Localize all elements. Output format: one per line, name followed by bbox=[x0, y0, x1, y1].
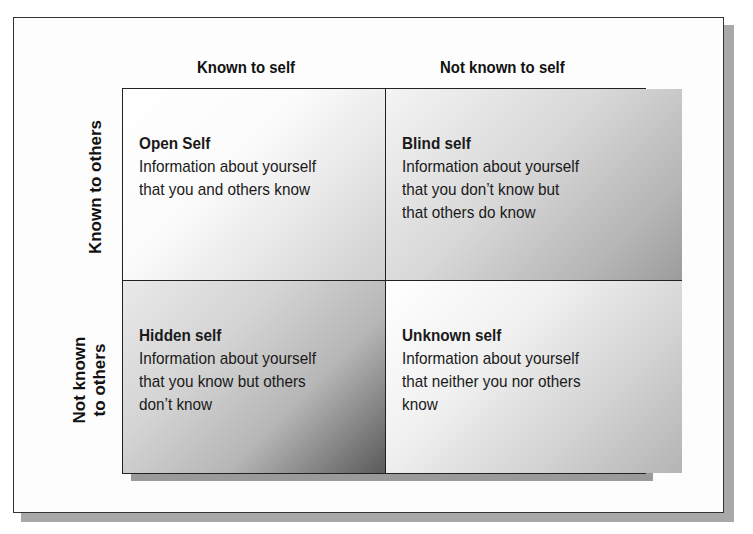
row-header-not-known-to-others: Not known to others bbox=[70, 325, 114, 435]
quadrant-title: Unknown self bbox=[402, 325, 654, 347]
quadrant-title: Open Self bbox=[139, 133, 360, 155]
column-header-known-to-self: Known to self bbox=[197, 58, 295, 78]
quadrant-hidden-self: Hidden self Information about yourself t… bbox=[123, 281, 386, 473]
quadrant-open-self: Open Self Information about yourself tha… bbox=[123, 89, 386, 281]
quadrant-unknown-self: Unknown self Information about yourself … bbox=[386, 281, 682, 473]
quadrant-description: Information about yourself that you know… bbox=[139, 347, 391, 416]
quadrant-description: Information about yourself that you don’… bbox=[402, 155, 654, 224]
quadrant-description: Information about yourself that neither … bbox=[402, 347, 654, 416]
johari-window-grid: Open Self Information about yourself tha… bbox=[122, 88, 646, 474]
column-header-not-known-to-self: Not known to self bbox=[440, 58, 565, 78]
row-header-known-to-others: Known to others bbox=[86, 112, 108, 262]
quadrant-blind-self: Blind self Information about yourself th… bbox=[386, 89, 682, 281]
quadrant-description: Information about yourself that you and … bbox=[139, 155, 391, 201]
quadrant-title: Hidden self bbox=[139, 325, 360, 347]
quadrant-title: Blind self bbox=[402, 133, 654, 155]
